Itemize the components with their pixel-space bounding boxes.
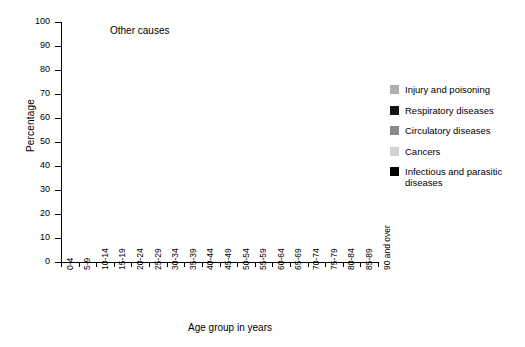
x-axis-label: 65-69 bbox=[293, 248, 303, 270]
x-axis-tick bbox=[167, 262, 168, 267]
y-axis-tick bbox=[55, 94, 61, 95]
y-axis-label: 0 bbox=[22, 257, 50, 266]
y-axis-tick bbox=[55, 70, 61, 71]
x-axis-label: 80-84 bbox=[346, 248, 356, 270]
x-axis-tick bbox=[272, 262, 273, 267]
x-axis-label: 55-59 bbox=[258, 248, 268, 270]
legend-label: Infectious and parasitic diseases bbox=[405, 166, 522, 188]
x-axis-label: 25-29 bbox=[153, 248, 163, 270]
x-axis-tick bbox=[220, 262, 221, 267]
legend-label: Cancers bbox=[405, 146, 440, 157]
y-axis-label: 90 bbox=[22, 41, 50, 50]
x-axis-label: 85-89 bbox=[364, 248, 374, 270]
y-axis-label: 20 bbox=[22, 209, 50, 218]
x-axis-tick bbox=[114, 262, 115, 267]
x-axis-tick bbox=[202, 262, 203, 267]
x-axis-label: 15-19 bbox=[117, 248, 127, 270]
x-axis-label: 75-79 bbox=[329, 248, 339, 270]
x-axis-label: 5-9 bbox=[82, 258, 92, 270]
y-axis-tick bbox=[55, 46, 61, 47]
x-axis-label: 90 and over bbox=[382, 225, 392, 270]
y-axis-tick bbox=[55, 118, 61, 119]
y-axis-line bbox=[61, 22, 62, 263]
x-axis-tick bbox=[237, 262, 238, 267]
x-axis-tick bbox=[343, 262, 344, 267]
y-axis-tick bbox=[55, 142, 61, 143]
x-axis-tick bbox=[360, 262, 361, 267]
legend-label: Respiratory diseases bbox=[405, 105, 494, 116]
legend-label: Injury and poisoning bbox=[405, 84, 490, 95]
x-axis-tick bbox=[290, 262, 291, 267]
other-causes-annotation: Other causes bbox=[110, 25, 169, 36]
legend-color-swatch bbox=[390, 126, 399, 135]
y-axis-tick bbox=[55, 22, 61, 23]
x-axis-title: Age group in years bbox=[150, 322, 310, 333]
legend-item: Cancers bbox=[390, 146, 522, 157]
y-axis-tick bbox=[55, 190, 61, 191]
x-axis-tick bbox=[255, 262, 256, 267]
x-axis-tick bbox=[96, 262, 97, 267]
legend-item: Injury and poisoning bbox=[390, 84, 522, 95]
legend-color-swatch bbox=[390, 85, 399, 94]
x-axis-label: 20-24 bbox=[135, 248, 145, 270]
stacked-area-chart: 0102030405060708090100 0-45-910-1415-192… bbox=[0, 0, 525, 347]
x-axis-label: 70-74 bbox=[311, 248, 321, 270]
x-axis-tick bbox=[149, 262, 150, 267]
legend-item: Infectious and parasitic diseases bbox=[390, 166, 522, 188]
x-axis-label: 35-39 bbox=[188, 248, 198, 270]
y-axis-tick bbox=[55, 166, 61, 167]
plot-area bbox=[61, 22, 378, 262]
x-axis-tick bbox=[79, 262, 80, 267]
legend-color-swatch bbox=[390, 147, 399, 156]
chart-legend: Injury and poisoningRespiratory diseases… bbox=[390, 84, 522, 198]
y-axis-tick bbox=[55, 238, 61, 239]
y-axis-title: Percentage bbox=[25, 71, 36, 181]
x-axis-tick bbox=[184, 262, 185, 267]
y-axis-label: 100 bbox=[22, 17, 50, 26]
plot-background bbox=[61, 22, 378, 262]
x-axis-label: 45-49 bbox=[223, 248, 233, 270]
x-axis-label: 30-34 bbox=[170, 248, 180, 270]
legend-color-swatch bbox=[390, 106, 399, 115]
y-axis-label: 30 bbox=[22, 185, 50, 194]
x-axis-tick bbox=[378, 262, 379, 267]
x-axis-label: 50-54 bbox=[241, 248, 251, 270]
x-axis-tick bbox=[325, 262, 326, 267]
x-axis-label: 10-14 bbox=[100, 248, 110, 270]
x-axis-label: 0-4 bbox=[65, 258, 75, 270]
legend-item: Respiratory diseases bbox=[390, 105, 522, 116]
legend-color-swatch bbox=[390, 167, 399, 176]
x-axis-tick bbox=[61, 262, 62, 267]
x-axis-label: 40-44 bbox=[205, 248, 215, 270]
legend-label: Circulatory diseases bbox=[405, 125, 491, 136]
x-axis-tick bbox=[308, 262, 309, 267]
x-axis-label: 60-64 bbox=[276, 248, 286, 270]
y-axis-tick bbox=[55, 214, 61, 215]
y-axis-label: 10 bbox=[22, 233, 50, 242]
legend-item: Circulatory diseases bbox=[390, 125, 522, 136]
x-axis-tick bbox=[131, 262, 132, 267]
